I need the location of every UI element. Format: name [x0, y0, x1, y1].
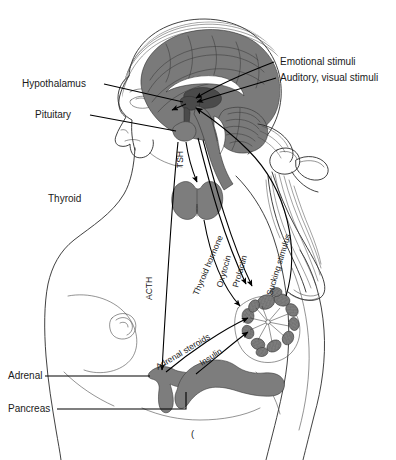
label-acth: ACTH — [144, 277, 154, 300]
label-prolactin: Prolactin — [230, 254, 249, 289]
pathway-labels: TSH Thyroid hormone Oxytocin Prolactin S… — [144, 151, 293, 372]
mammary-gland — [240, 288, 301, 358]
label-pituitary: Pituitary — [35, 109, 71, 120]
hair-ribbon — [270, 148, 328, 192]
areola — [110, 314, 136, 340]
label-emotional-stimuli: Emotional stimuli — [280, 56, 356, 67]
pancreas-gland — [175, 360, 285, 409]
acth-arrow — [162, 142, 178, 370]
ponytail — [258, 124, 328, 300]
label-pancreas: Pancreas — [8, 403, 50, 414]
label-thyroid: Thyroid — [48, 193, 81, 204]
artifact-mark: ( — [191, 428, 195, 439]
label-adrenal: Adrenal — [8, 370, 42, 381]
label-auditory-visual-stimuli: Auditory, visual stimuli — [280, 72, 378, 83]
label-tsh: TSH — [175, 151, 185, 168]
tsh-arrow — [186, 142, 197, 182]
endocrine-system-diagram: Hypothalamus Pituitary Thyroid Adrenal P… — [0, 0, 396, 460]
label-hypothalamus: Hypothalamus — [22, 78, 86, 89]
